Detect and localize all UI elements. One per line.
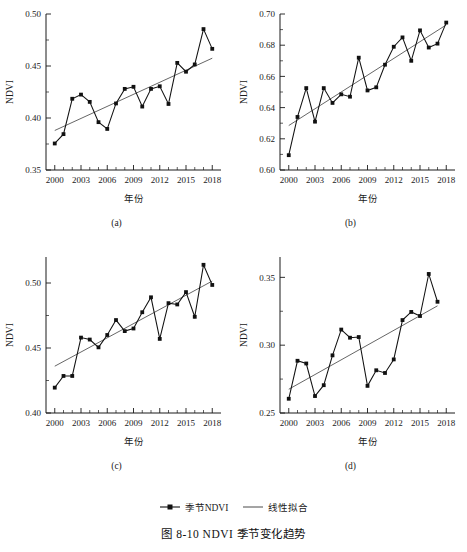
- data-point-c: [184, 290, 188, 294]
- x-tick-label-d: 2003: [306, 418, 325, 428]
- x-tick-label-b: 2003: [306, 175, 325, 185]
- chart-d: 0.250.300.352000200320062009201220152018…: [234, 243, 467, 459]
- x-tick-label-b: 2000: [280, 175, 299, 185]
- x-tick-label-c: 2006: [98, 418, 117, 428]
- data-point-a: [79, 93, 83, 97]
- chart-b: 0.600.620.640.660.680.702000200320062009…: [234, 0, 467, 216]
- data-point-b: [287, 153, 291, 157]
- data-point-b: [357, 56, 361, 60]
- y-axis-title-d: NDVI: [239, 323, 249, 347]
- data-point-d: [409, 310, 413, 314]
- data-point-b: [313, 120, 317, 124]
- y-tick-label-c: 0.40: [25, 408, 41, 418]
- data-point-b: [418, 28, 422, 32]
- legend-swatch-seasonal-ndvi: [159, 502, 181, 512]
- data-point-b: [392, 45, 396, 49]
- y-tick-label-c: 0.50: [25, 278, 41, 288]
- x-tick-label-b: 2006: [332, 175, 351, 185]
- data-point-a: [149, 87, 153, 91]
- x-tick-label-a: 2015: [177, 175, 196, 185]
- x-tick-label-c: 2009: [125, 418, 144, 428]
- data-point-b: [296, 115, 300, 119]
- data-point-a: [140, 105, 144, 109]
- data-point-d: [313, 394, 317, 398]
- figure-legend: 季节NDVI 线性拟合: [0, 500, 467, 514]
- data-point-a: [184, 70, 188, 74]
- x-tick-label-d: 2015: [411, 418, 430, 428]
- data-point-c: [210, 283, 214, 287]
- data-point-c: [175, 303, 179, 307]
- x-tick-label-d: 2009: [359, 418, 378, 428]
- data-point-c: [158, 337, 162, 341]
- x-tick-label-a: 2009: [125, 175, 144, 185]
- data-point-c: [62, 374, 66, 378]
- y-axis-title-b: NDVI: [239, 80, 249, 104]
- x-tick-label-c: 2003: [72, 418, 91, 428]
- x-tick-label-d: 2012: [385, 418, 403, 428]
- y-tick-label-b: 0.68: [259, 40, 275, 50]
- data-point-d: [427, 272, 431, 276]
- data-point-a: [105, 127, 109, 131]
- panel-label-c: (c): [0, 461, 233, 471]
- x-axis-title-b: 年份: [358, 193, 378, 204]
- data-point-c: [140, 310, 144, 314]
- x-tick-label-c: 2012: [151, 418, 169, 428]
- data-point-d: [401, 318, 405, 322]
- data-point-d: [357, 335, 361, 339]
- axis-frame-d: [280, 257, 455, 413]
- data-point-a: [114, 102, 118, 106]
- chart-panel-c: 0.400.450.502000200320062009201220152018…: [0, 243, 233, 483]
- data-point-c: [193, 315, 197, 319]
- data-point-a: [202, 27, 206, 31]
- data-point-b: [339, 92, 343, 96]
- y-tick-label-b: 0.70: [259, 9, 275, 19]
- x-tick-label-b: 2015: [411, 175, 430, 185]
- data-point-d: [348, 336, 352, 340]
- data-point-d: [322, 383, 326, 387]
- data-point-d: [374, 368, 378, 372]
- x-tick-label-d: 2006: [332, 418, 351, 428]
- chart-panel-a: 0.350.400.450.50200020032006200920122015…: [0, 0, 233, 240]
- y-tick-label-d: 0.30: [259, 340, 275, 350]
- legend-label-linear-fit: 线性拟合: [268, 500, 308, 514]
- data-point-d: [287, 397, 291, 401]
- data-point-a: [97, 120, 101, 124]
- data-point-a: [167, 102, 171, 106]
- data-point-c: [114, 318, 118, 322]
- axis-frame-c: [46, 257, 221, 413]
- data-point-c: [123, 329, 127, 333]
- data-point-c: [97, 345, 101, 349]
- data-point-b: [322, 86, 326, 90]
- data-point-d: [304, 362, 308, 366]
- data-point-a: [62, 132, 66, 136]
- data-point-c: [53, 386, 57, 390]
- data-point-a: [53, 142, 57, 146]
- panel-label-d: (d): [234, 461, 467, 471]
- data-point-c: [132, 327, 136, 331]
- data-point-b: [444, 21, 448, 25]
- data-point-d: [383, 371, 387, 375]
- legend-swatch-linear-fit: [242, 502, 264, 512]
- data-point-d: [366, 384, 370, 388]
- y-tick-label-b: 0.60: [259, 165, 275, 175]
- data-point-c: [167, 301, 171, 305]
- x-tick-label-a: 2003: [72, 175, 91, 185]
- x-tick-label-a: 2012: [151, 175, 169, 185]
- data-point-b: [436, 42, 440, 46]
- panel-label-b: (b): [234, 218, 467, 228]
- data-point-c: [149, 295, 153, 299]
- y-tick-label-a: 0.35: [25, 165, 41, 175]
- y-tick-label-a: 0.50: [25, 9, 41, 19]
- data-point-a: [123, 87, 127, 91]
- x-tick-label-c: 2018: [203, 418, 222, 428]
- data-point-b: [401, 36, 405, 40]
- x-tick-label-a: 2006: [98, 175, 117, 185]
- data-point-b: [304, 86, 308, 90]
- y-tick-label-c: 0.45: [25, 343, 41, 353]
- axis-frame-a: [46, 14, 221, 170]
- y-tick-label-b: 0.62: [259, 134, 275, 144]
- chart-panel-d: 0.250.300.352000200320062009201220152018…: [234, 243, 467, 483]
- series-line-c: [55, 265, 213, 388]
- trend-line-c: [55, 281, 213, 366]
- data-point-a: [175, 61, 179, 65]
